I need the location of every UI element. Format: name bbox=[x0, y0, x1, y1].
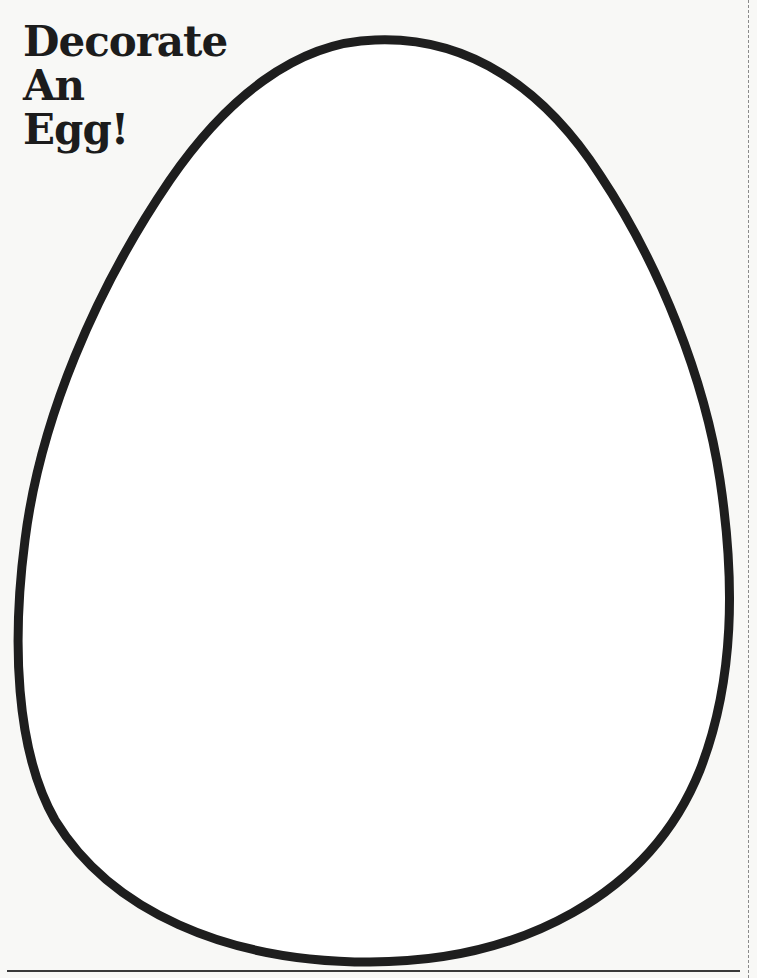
title-line-3: Egg! bbox=[23, 108, 227, 152]
title-line-1: Decorate bbox=[23, 20, 227, 64]
worksheet-page: Decorate An Egg! bbox=[0, 0, 757, 978]
title-line-2: An bbox=[23, 64, 227, 108]
egg-outline[interactable] bbox=[18, 40, 729, 962]
page-title: Decorate An Egg! bbox=[23, 20, 227, 152]
